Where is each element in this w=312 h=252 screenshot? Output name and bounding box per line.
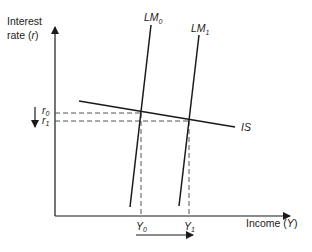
y1-label: Y1 [184, 220, 195, 233]
y0-label: Y0 [136, 220, 147, 233]
islm-diagram: Interest rate (r) Income (Y) LM0 LM1 IS … [0, 0, 312, 252]
y-axis-label-line2: rate (r) [7, 29, 39, 41]
y-axis-label-line1: Interest [7, 15, 42, 27]
is-label: IS [241, 121, 251, 133]
lm0-label: LM0 [144, 11, 163, 25]
x-axis-label: Income (Y) [246, 217, 297, 229]
lm1-label: LM1 [191, 22, 210, 36]
is-curve [79, 101, 235, 127]
